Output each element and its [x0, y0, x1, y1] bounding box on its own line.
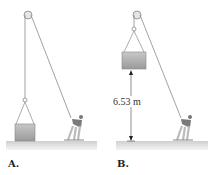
person-icon-a: [64, 115, 84, 140]
hook-b: [132, 27, 136, 31]
crate-a: [15, 124, 35, 141]
panel-label-a: A.: [8, 158, 19, 169]
ground-b: [116, 141, 208, 150]
panel-b: [116, 11, 208, 150]
hook-a: [23, 98, 27, 102]
crate-b: [122, 52, 146, 69]
person-icon-b: [173, 115, 193, 140]
ground-a: [6, 141, 97, 150]
sling-left-b: [124, 31, 134, 52]
physics-diagram: [0, 0, 215, 175]
sling-right-b: [134, 31, 144, 52]
rope-pull-a: [31, 15, 71, 118]
height-label: 6.53 m: [112, 96, 142, 107]
sling-right-a: [25, 102, 34, 124]
panel-label-b: B.: [117, 158, 129, 169]
sling-left-a: [16, 102, 25, 124]
panel-a: [6, 11, 97, 150]
